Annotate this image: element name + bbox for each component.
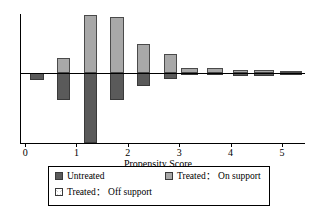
x-axis-tick-label: 0: [15, 147, 35, 158]
legend-label-untreated: Untreated: [67, 171, 104, 181]
histogram-bar: [110, 73, 123, 100]
legend-item-treated-on-support: Treated： On support: [165, 171, 261, 181]
histogram-bar: [84, 15, 97, 73]
histogram-bar: [137, 44, 150, 74]
legend-swatch-off-support-icon: [55, 188, 63, 196]
legend-swatch-untreated-icon: [55, 172, 63, 180]
histogram-bar: [57, 73, 70, 100]
histogram-bar: [57, 58, 70, 73]
y-axis-line: [20, 14, 21, 144]
histogram-bar: [110, 17, 123, 73]
x-axis-tick-label: 1: [66, 147, 86, 158]
legend-swatch-on-support-icon: [165, 172, 173, 180]
x-axis-tick-label: 2: [118, 147, 138, 158]
histogram-bar: [84, 73, 97, 143]
legend-label-treated-off-support: Treated： Off support: [67, 187, 152, 197]
propensity-score-histogram: 012345 Propensity Score Untreated Treate…: [0, 0, 316, 212]
legend-item-untreated: Untreated: [55, 171, 104, 181]
x-axis-tick-label: 5: [272, 147, 292, 158]
chart-legend: Untreated Treated： On support Treated： O…: [48, 166, 270, 206]
x-axis-tick-label: 4: [221, 147, 241, 158]
zero-baseline: [20, 73, 305, 74]
plot-area: 012345 Propensity Score: [0, 0, 316, 160]
histogram-bar: [164, 54, 177, 73]
x-axis-tick-label: 3: [169, 147, 189, 158]
x-axis-line: [20, 143, 305, 144]
legend-label-treated-on-support: Treated： On support: [177, 171, 261, 181]
legend-item-treated-off-support: Treated： Off support: [55, 187, 152, 197]
histogram-bar: [137, 73, 150, 86]
